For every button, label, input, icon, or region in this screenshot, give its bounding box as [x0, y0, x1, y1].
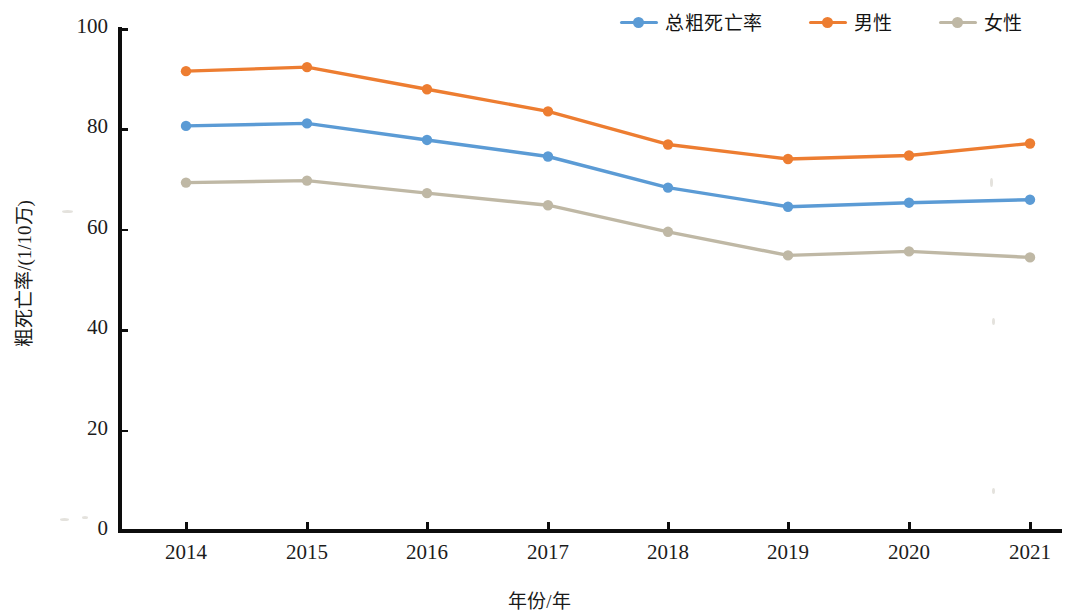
data-point[interactable]: [783, 250, 793, 260]
data-point[interactable]: [422, 188, 432, 198]
series-2: [181, 62, 1035, 164]
series-3: [181, 175, 1035, 262]
series-layer: [0, 0, 1079, 613]
data-point[interactable]: [783, 154, 793, 164]
series-line: [186, 181, 1030, 258]
data-point[interactable]: [422, 84, 432, 94]
data-point[interactable]: [783, 202, 793, 212]
data-point[interactable]: [302, 175, 312, 185]
data-point[interactable]: [543, 151, 553, 161]
data-point[interactable]: [543, 200, 553, 210]
data-point[interactable]: [663, 227, 673, 237]
data-point[interactable]: [302, 62, 312, 72]
data-point[interactable]: [422, 135, 432, 145]
data-point[interactable]: [663, 139, 673, 149]
data-point[interactable]: [302, 118, 312, 128]
data-point[interactable]: [904, 197, 914, 207]
line-chart: 总粗死亡率 男性 女性 100806040200 201420152016201…: [0, 0, 1079, 613]
data-point[interactable]: [904, 150, 914, 160]
data-point[interactable]: [663, 182, 673, 192]
data-point[interactable]: [1025, 252, 1035, 262]
series-line: [186, 123, 1030, 206]
series-line: [186, 67, 1030, 159]
data-point[interactable]: [181, 177, 191, 187]
data-point[interactable]: [181, 121, 191, 131]
data-point[interactable]: [1025, 138, 1035, 148]
data-point[interactable]: [904, 246, 914, 256]
data-point[interactable]: [1025, 194, 1035, 204]
data-point[interactable]: [543, 106, 553, 116]
series-1: [181, 118, 1035, 212]
data-point[interactable]: [181, 66, 191, 76]
